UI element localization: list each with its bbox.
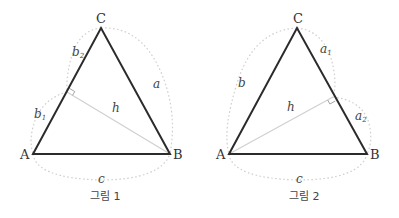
figure-2: A B C b a1 a2 h c 그림 2 — [215, 11, 380, 203]
side-a-label: a — [153, 77, 160, 91]
side-b1-label: b1 — [34, 107, 46, 122]
side-b-label: b — [238, 76, 246, 90]
side-c-label: c — [98, 172, 105, 186]
figure-1: A B C b2 b1 a h c 그림 1 — [19, 11, 183, 203]
side-a2-label: a2 — [355, 109, 367, 124]
vertex-a-label: A — [215, 147, 226, 162]
diagram-canvas: A B C b2 b1 a h c 그림 1 A B C b a1 a2 h c — [0, 0, 399, 218]
triangle-abc-figure-1 — [33, 28, 170, 154]
side-b2-label: b2 — [72, 45, 85, 60]
side-c-label: c — [296, 172, 303, 186]
altitude-h-label: h — [287, 100, 295, 114]
vertex-b-label: B — [173, 147, 183, 162]
triangle-abc-figure-2 — [229, 28, 367, 154]
altitude-h-label: h — [112, 101, 120, 115]
vertex-a-label: A — [19, 147, 30, 162]
vertex-c-label: C — [293, 11, 303, 26]
right-angle-marker-figure-2 — [328, 100, 336, 104]
vertex-b-label: B — [370, 147, 380, 162]
figure-2-caption: 그림 2 — [289, 190, 320, 203]
figure-1-caption: 그림 1 — [90, 190, 121, 203]
vertex-c-label: C — [96, 11, 106, 26]
side-a1-label: a1 — [320, 42, 332, 57]
